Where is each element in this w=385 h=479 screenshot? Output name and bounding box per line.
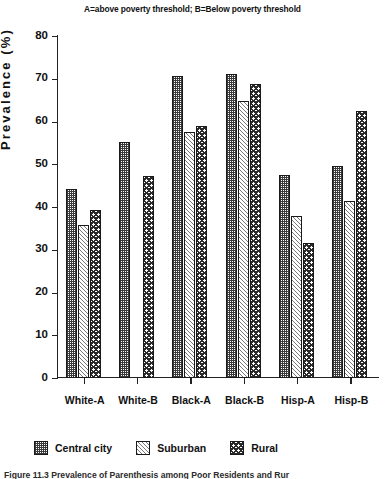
y-axis-tick-label: 60 xyxy=(35,114,48,126)
x-axis-tick xyxy=(84,378,85,384)
bar-group: Hisp-A xyxy=(279,36,317,378)
bar-group: Black-B xyxy=(226,36,264,378)
legend-item-suburban[interactable]: Suburban xyxy=(136,441,206,455)
legend-label: Rural xyxy=(251,442,278,454)
bar-white-b-central-city[interactable] xyxy=(119,142,130,378)
bar-black-a-rural[interactable] xyxy=(196,126,207,378)
y-axis-tick-label: 40 xyxy=(35,200,48,212)
y-axis-tick: 30 xyxy=(52,250,58,251)
y-axis-tick: 60 xyxy=(52,122,58,123)
legend-swatch-icon xyxy=(230,441,244,455)
bar-group-bars xyxy=(279,36,315,378)
y-axis-tick: 40 xyxy=(52,207,58,208)
x-axis-tick xyxy=(297,378,298,384)
y-axis-tick: 70 xyxy=(52,79,58,80)
chart-figure: A=above poverty threshold; B=Below pover… xyxy=(0,0,385,479)
bar-hisp-b-suburban[interactable] xyxy=(344,201,355,378)
x-axis-tick xyxy=(137,378,138,384)
y-axis-tick: 50 xyxy=(52,164,58,165)
bar-white-a-suburban[interactable] xyxy=(78,225,89,378)
y-axis-tick-label: 0 xyxy=(42,371,48,383)
bar-hisp-a-suburban[interactable] xyxy=(291,216,302,378)
bar-black-a-central-city[interactable] xyxy=(172,76,183,378)
y-axis-tick-label: 10 xyxy=(35,328,48,340)
bar-group-bars xyxy=(119,36,155,378)
bar-group-bars xyxy=(172,36,208,378)
legend-label: Central city xyxy=(55,442,112,454)
y-axis-tick: 80 xyxy=(52,36,58,37)
y-axis-tick-label: 20 xyxy=(35,285,48,297)
y-axis-tick: 10 xyxy=(52,335,58,336)
bar-hisp-b-central-city[interactable] xyxy=(332,166,343,378)
legend-label: Suburban xyxy=(157,442,206,454)
bar-black-a-suburban[interactable] xyxy=(184,132,195,378)
legend-item-rural[interactable]: Rural xyxy=(230,441,278,455)
legend-item-central-city[interactable]: Central city xyxy=(34,441,112,455)
bar-hisp-a-rural[interactable] xyxy=(303,243,314,378)
bar-hisp-a-central-city[interactable] xyxy=(279,175,290,378)
plot-area: 80706050403020100White-AWhite-BBlack-ABl… xyxy=(58,36,378,378)
bar-black-b-suburban[interactable] xyxy=(238,101,249,378)
x-axis-tick xyxy=(244,378,245,384)
bar-group: White-B xyxy=(119,36,157,378)
bar-black-b-rural[interactable] xyxy=(250,84,261,378)
figure-caption: Figure 11.3 Prevalence of Parenthesis am… xyxy=(4,470,384,479)
x-axis-tick xyxy=(350,378,351,384)
y-axis-tick: 20 xyxy=(52,293,58,294)
bar-group: Hisp-B xyxy=(332,36,370,378)
y-axis-tick-label: 30 xyxy=(35,242,48,254)
bar-black-b-central-city[interactable] xyxy=(226,74,237,378)
bar-white-a-central-city[interactable] xyxy=(66,189,77,378)
x-axis-tick xyxy=(190,378,191,384)
bar-group-bars xyxy=(332,36,368,378)
y-axis-tick-label: 50 xyxy=(35,157,48,169)
legend-swatch-icon xyxy=(34,441,48,455)
chart-legend: Central citySuburbanRural xyxy=(34,441,354,455)
bar-group: White-A xyxy=(66,36,104,378)
bar-white-b-rural[interactable] xyxy=(143,176,154,378)
bar-group-bars xyxy=(226,36,262,378)
bar-group: Black-A xyxy=(172,36,210,378)
x-axis-label-hisp-b: Hisp-B xyxy=(311,394,385,406)
y-axis-tick-label: 80 xyxy=(35,29,48,41)
bar-white-a-rural[interactable] xyxy=(90,210,101,378)
bar-group-bars xyxy=(66,36,102,378)
chart-title: A=above poverty threshold; B=Below pover… xyxy=(0,4,385,14)
legend-swatch-icon xyxy=(136,441,150,455)
bar-hisp-b-rural[interactable] xyxy=(356,111,367,378)
y-axis-tick: 0 xyxy=(52,378,58,379)
y-axis-tick-label: 70 xyxy=(35,71,48,83)
y-axis-label: Prevalence (%) xyxy=(0,28,13,150)
